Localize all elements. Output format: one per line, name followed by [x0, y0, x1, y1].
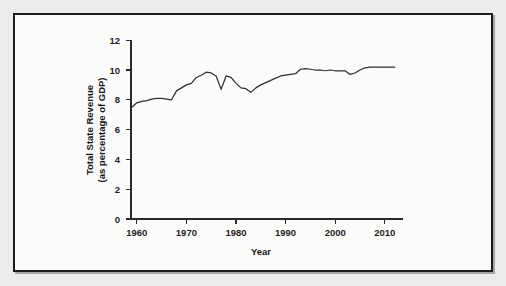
- y-axis-title: Total State Revenue (as percentage of GD…: [84, 77, 107, 182]
- x-tick-label-1970: 1970: [176, 227, 197, 238]
- y-axis-tick-labels: 12 10 8 6 4 2 0: [109, 35, 120, 225]
- figure-frame-border: 12 10 8 6 4 2 0: [13, 13, 493, 272]
- x-tick-label-2010: 2010: [374, 227, 395, 238]
- x-axis-ticks: [137, 219, 385, 224]
- revenue-series-line: [132, 67, 395, 107]
- y-tick-label-6: 6: [115, 124, 120, 135]
- line-chart: 12 10 8 6 4 2 0: [15, 15, 490, 269]
- y-tick-label-0: 0: [115, 214, 120, 225]
- y-tick-label-4: 4: [115, 154, 121, 165]
- y-axis-title-line1: Total State Revenue: [84, 85, 95, 175]
- x-tick-label-1990: 1990: [275, 227, 296, 238]
- figure-page: 12 10 8 6 4 2 0: [0, 0, 506, 286]
- y-axis-ticks: [126, 40, 131, 219]
- y-tick-label-10: 10: [109, 65, 120, 76]
- x-tick-label-2000: 2000: [325, 227, 346, 238]
- x-tick-label-1980: 1980: [225, 227, 246, 238]
- x-axis-tick-labels: 1960 1970 1980 1990 2000 2010: [126, 227, 395, 238]
- y-tick-label-2: 2: [115, 184, 120, 195]
- y-tick-label-8: 8: [115, 94, 120, 105]
- y-axis-title-line2: (as percentage of GDP): [96, 77, 107, 182]
- x-axis-title: Year: [251, 246, 271, 257]
- x-tick-label-1960: 1960: [126, 227, 147, 238]
- y-tick-label-12: 12: [109, 35, 120, 46]
- plot-area: 12 10 8 6 4 2 0: [15, 15, 491, 270]
